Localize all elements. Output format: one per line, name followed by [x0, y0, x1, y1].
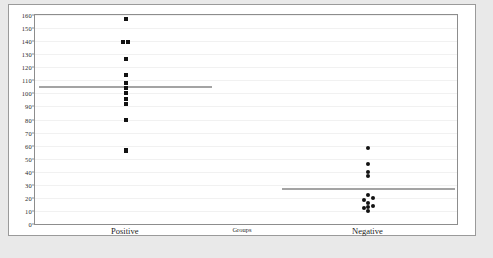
y-tick-label: 160 [22, 12, 32, 19]
y-tick-mark [32, 93, 35, 94]
y-gridline [35, 120, 457, 121]
data-point [124, 97, 128, 101]
mean-line-negative [282, 188, 455, 189]
y-tick-mark [32, 145, 35, 146]
y-tick-label: 0 [29, 221, 32, 228]
y-tick-label: 70 [25, 129, 32, 136]
y-gridline [35, 15, 457, 16]
data-point [362, 206, 366, 210]
y-tick-mark [32, 54, 35, 55]
y-tick-label: 110 [22, 77, 32, 84]
y-tick-label: 60 [25, 142, 32, 149]
y-gridline [35, 211, 457, 212]
data-point [124, 91, 128, 95]
data-point [124, 17, 128, 21]
data-point [366, 174, 370, 178]
y-tick-mark [32, 28, 35, 29]
data-point [121, 40, 125, 44]
y-gridline [35, 172, 457, 173]
y-tick-mark [32, 41, 35, 42]
y-tick-mark [32, 197, 35, 198]
group-label-positive: Positive [111, 226, 138, 236]
y-gridline [35, 185, 457, 186]
y-gridline [35, 67, 457, 68]
data-point [124, 102, 128, 106]
y-tick-label: 120 [22, 64, 32, 71]
y-tick-mark [32, 67, 35, 68]
y-tick-label: 30 [25, 181, 32, 188]
y-gridline [35, 106, 457, 107]
y-tick-mark [32, 132, 35, 133]
y-tick-label: 50 [25, 155, 32, 162]
plot-area: 0102030405060708090100110120130140150160 [34, 14, 458, 225]
y-gridline [35, 41, 457, 42]
y-tick-mark [32, 119, 35, 120]
y-tick-label: 100 [22, 90, 32, 97]
y-gridline [35, 54, 457, 55]
y-gridline [35, 133, 457, 134]
y-tick-mark [32, 224, 35, 225]
x-axis-title: Groups [232, 226, 251, 233]
data-point [126, 40, 130, 44]
y-tick-mark [32, 106, 35, 107]
y-tick-mark [32, 158, 35, 159]
y-tick-label: 130 [22, 51, 32, 58]
data-point [362, 198, 366, 202]
data-point [124, 86, 128, 90]
data-point [366, 146, 370, 150]
y-tick-label: 20 [25, 194, 32, 201]
y-gridline [35, 80, 457, 81]
y-tick-label: 150 [22, 25, 32, 32]
figure-panel: 0102030405060708090100110120130140150160… [8, 4, 476, 236]
y-tick-label: 80 [25, 116, 32, 123]
data-point [124, 73, 128, 77]
y-gridline [35, 28, 457, 29]
y-tick-label: 90 [25, 103, 32, 110]
data-point [366, 193, 370, 197]
y-tick-label: 40 [25, 168, 32, 175]
data-point [371, 196, 375, 200]
data-point [366, 209, 370, 213]
data-point [124, 149, 128, 153]
group-label-negative: Negative [352, 226, 383, 236]
y-gridline [35, 146, 457, 147]
data-point [366, 162, 370, 166]
data-point [124, 57, 128, 61]
data-point [124, 81, 128, 85]
y-tick-mark [32, 15, 35, 16]
y-tick-mark [32, 210, 35, 211]
y-tick-mark [32, 184, 35, 185]
data-point [371, 204, 375, 208]
y-tick-label: 140 [22, 38, 32, 45]
y-tick-mark [32, 80, 35, 81]
data-point [124, 118, 128, 122]
y-gridline [35, 159, 457, 160]
y-gridline [35, 198, 457, 199]
y-tick-mark [32, 171, 35, 172]
y-gridline [35, 93, 457, 94]
y-tick-label: 10 [25, 207, 32, 214]
